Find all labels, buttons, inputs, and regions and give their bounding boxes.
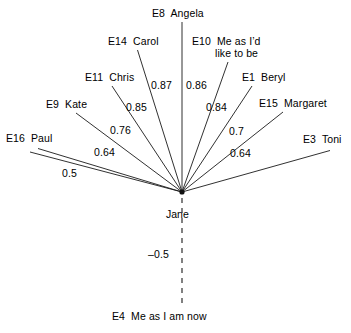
spoke-label-e9-kate: E9 Kate: [46, 99, 87, 111]
spoke-value-e11-chris: 0.76: [110, 124, 131, 136]
fan-diagram-svg: [0, 0, 351, 333]
spoke-value-e3-toni: 0.64: [230, 147, 251, 159]
spoke-line-e14-carol: [138, 50, 183, 192]
dashed-line-value: –0.5: [148, 248, 169, 260]
spoke-label-e16-paul: E16 Paul: [6, 133, 52, 145]
spoke-line-e3-toni: [182, 151, 330, 193]
spoke-label-e11-chris: E11 Chris: [85, 72, 134, 84]
spoke-value-e10: 0.86: [186, 79, 207, 91]
spoke-label-e14-carol: E14 Carol: [108, 36, 159, 48]
spoke-label-e1-beryl: E1 Beryl: [242, 72, 286, 84]
spoke-value-e9-kate: 0.64: [94, 146, 115, 158]
spoke-label-e10-line1: E10 Me as I’d: [192, 36, 261, 48]
center-node: [179, 189, 184, 194]
spoke-label-e15-margaret: E15 Margaret: [259, 98, 327, 110]
center-node-label: Jane: [166, 208, 189, 220]
fan-diagram-canvas: E16 Paul E9 Kate E11 Chris E14 Carol E8 …: [0, 0, 351, 333]
spoke-value-e15-margaret: 0.7: [229, 125, 244, 137]
spoke-value-e16-paul: 0.5: [62, 167, 77, 179]
spoke-label-e10-line2: like to be: [215, 48, 258, 60]
spoke-value-e1-beryl: 0.84: [206, 101, 227, 113]
bottom-label-e4: E4 Me as I am now: [112, 311, 207, 323]
spoke-value-e8-angela: 0.87: [151, 79, 172, 91]
spoke-label-e8-angela: E8 Angela: [152, 8, 204, 20]
spoke-label-e3-toni: E3 Toni: [303, 134, 342, 146]
spoke-value-e14-carol: 0.85: [126, 101, 147, 113]
